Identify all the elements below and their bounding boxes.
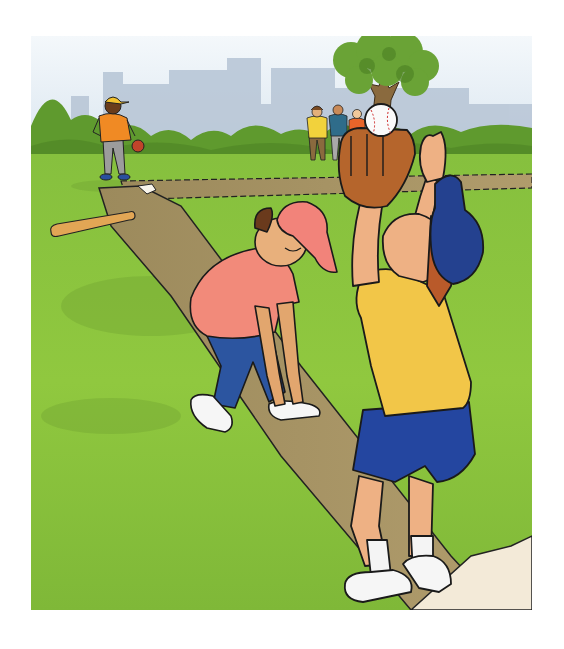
baseball-scene [31,36,532,610]
baseball [365,104,397,136]
illustration-frame: Cartoon of children playing baseball in … [31,36,532,610]
